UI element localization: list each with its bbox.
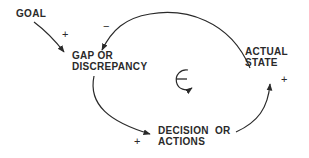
sign-actual-gap: − — [103, 21, 109, 32]
sign-gap-decision: + — [134, 136, 140, 147]
arrow-decision-to-actual — [236, 84, 270, 132]
node-decision-or-actions: DECISION OR ACTIONS — [158, 125, 231, 147]
loop-polarity-icon — [176, 70, 192, 90]
loop-arrows — [0, 0, 309, 158]
arrow-goal-to-gap — [34, 22, 64, 52]
sign-goal-gap: + — [62, 29, 68, 40]
node-actual-state: ACTUAL STATE — [245, 46, 288, 68]
arrow-gap-to-decision — [93, 76, 150, 134]
node-gap-or-discrepancy: GAP OR DISCREPANCY — [72, 50, 147, 72]
node-goal: GOAL — [16, 8, 46, 19]
sign-decision-actual: + — [281, 74, 287, 85]
